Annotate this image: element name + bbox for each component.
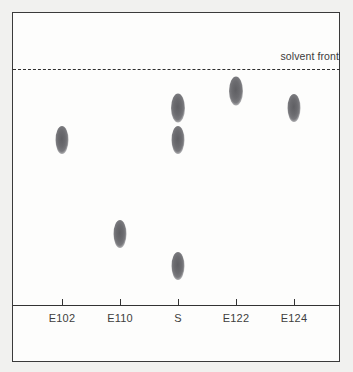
- axis-tick-e122: [236, 299, 237, 306]
- tlc-plate-figure: solvent front E102E110SE122E124: [0, 0, 353, 372]
- axis-tick-e102: [62, 299, 63, 306]
- tlc-spot-e122-1: [229, 77, 243, 106]
- axis-tick-e124: [294, 299, 295, 306]
- axis-tick-s: [178, 299, 179, 306]
- tlc-plate-border: [12, 12, 340, 362]
- tlc-spot-s-1: [171, 94, 185, 123]
- solvent-front-label: solvent front: [281, 50, 340, 62]
- tlc-spot-s-3: [172, 252, 185, 280]
- tlc-spot-e124-1: [288, 94, 301, 122]
- lane-label-e122: E122: [223, 312, 250, 324]
- lane-label-e124: E124: [281, 312, 308, 324]
- solvent-front-line: [13, 69, 340, 70]
- lane-label-e102: E102: [49, 312, 76, 324]
- lane-label-e110: E110: [107, 312, 133, 324]
- tlc-spot-e110-1: [114, 220, 127, 248]
- lane-label-s: S: [174, 312, 182, 324]
- axis-tick-e110: [120, 299, 121, 306]
- tlc-spot-e102-1: [56, 126, 69, 154]
- tlc-spot-s-2: [172, 126, 185, 154]
